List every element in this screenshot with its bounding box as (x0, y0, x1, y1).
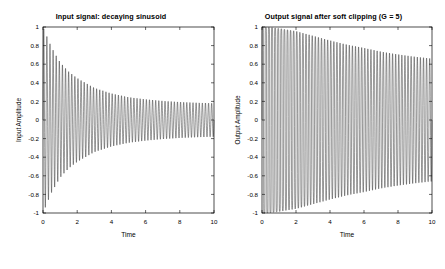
x-tick-label: 6 (362, 218, 366, 225)
figure-canvas: Input signal: decaying sinusoid Input Am… (0, 0, 445, 269)
y-tick-label: -0.4 (247, 153, 258, 160)
x-tick-label: 8 (178, 218, 182, 225)
x-tick-label: 2 (294, 218, 298, 225)
y-tick-label: -0.4 (28, 153, 39, 160)
x-tick-label: 0 (41, 218, 45, 225)
chart-panel-input: Input signal: decaying sinusoid Input Am… (0, 0, 222, 269)
y-tick-label: 0.8 (249, 42, 258, 49)
y-tick-label: -0.2 (28, 135, 39, 142)
y-tick-label: 0.8 (30, 42, 39, 49)
y-tick-label: 0.4 (30, 79, 39, 86)
y-tick-label: 0 (36, 116, 40, 123)
plot-area-output: 024681010.80.60.40.20-0.2-0.4-0.6-0.8-1 (222, 0, 445, 269)
x-tick-label: 10 (429, 218, 436, 225)
x-tick-label: 4 (328, 218, 332, 225)
y-tick-label: 0.2 (30, 98, 39, 105)
y-tick-label: -0.2 (247, 135, 258, 142)
x-tick-label: 10 (211, 218, 218, 225)
y-tick-label: 1 (255, 23, 259, 30)
x-tick-label: 6 (144, 218, 148, 225)
x-tick-label: 8 (396, 218, 400, 225)
y-tick-label: 0.2 (249, 98, 258, 105)
x-tick-label: 0 (260, 218, 264, 225)
plot-area-input: 024681010.80.60.40.20-0.2-0.4-0.6-0.8-1 (0, 0, 222, 269)
y-tick-label: -0.8 (28, 191, 39, 198)
y-tick-label: -1 (252, 209, 258, 216)
y-tick-label: 0.6 (249, 60, 258, 67)
y-tick-label: 0.4 (249, 79, 258, 86)
y-tick-label: -0.8 (247, 191, 258, 198)
y-tick-label: 0 (255, 116, 259, 123)
x-tick-label: 4 (110, 218, 114, 225)
y-tick-label: 0.6 (30, 60, 39, 67)
waveform-line (262, 27, 432, 213)
y-tick-label: -0.6 (28, 172, 39, 179)
y-tick-label: 1 (36, 23, 40, 30)
chart-panel-output: Output signal after soft clipping (G = 5… (222, 0, 445, 269)
y-tick-label: -1 (33, 209, 39, 216)
x-tick-label: 2 (75, 218, 79, 225)
y-tick-label: -0.6 (247, 172, 258, 179)
waveform-line (43, 29, 214, 208)
